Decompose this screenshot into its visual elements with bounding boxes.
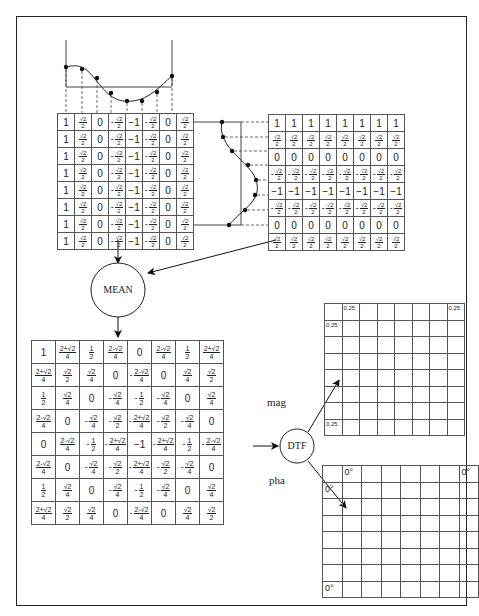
grid-cell [412, 320, 430, 337]
matrix-cell: -√22 [354, 166, 371, 183]
matrix-cell: 0 [56, 410, 80, 433]
matrix-cell: 2+√24 [32, 502, 56, 525]
matrix-cell: 0 [92, 165, 109, 182]
matrix-cell: √22 [75, 216, 92, 233]
grid-cell [342, 499, 362, 516]
matrix-cell: 12 [176, 341, 200, 364]
grid-cell [325, 353, 343, 370]
matrix-cell: -√22 [143, 165, 160, 182]
matrix-cell: 0 [160, 199, 177, 216]
grid-cell [360, 320, 378, 337]
grid-cell [360, 419, 378, 436]
grid-cell [360, 337, 378, 354]
matrix-cell: -√22 [109, 165, 126, 182]
grid-cell [430, 403, 448, 420]
matrix-cell: 0 [92, 216, 109, 233]
mag-edge-label: mag [267, 396, 286, 408]
matrix-cell: √22 [177, 114, 194, 131]
grid-cell [362, 482, 382, 499]
magnitude-grid: 0,250,250,250,25 [324, 303, 465, 436]
grid-cell [381, 499, 401, 516]
matrix-cell: 0 [92, 199, 109, 216]
grid-cell [459, 515, 479, 532]
matrix-cell: -√22 [337, 166, 354, 183]
matrix-cell: -2+√24 [152, 433, 176, 456]
matrix-cell: √22 [337, 234, 354, 251]
matrix-cell: √22 [337, 132, 354, 149]
matrix-cell: 0 [160, 233, 177, 250]
grid-cell [323, 499, 343, 516]
matrix-cell: 0 [160, 182, 177, 199]
grid-cell: 0° [459, 466, 479, 483]
matrix-cell: √22 [177, 131, 194, 148]
matrix-cell: 12 [32, 387, 56, 410]
matrix-cell: 0 [160, 148, 177, 165]
matrix-cell: 0 [32, 433, 56, 456]
grid-cell [377, 353, 395, 370]
matrix-cell: √22 [320, 234, 337, 251]
grid-cell [395, 370, 413, 387]
matrix-cell: -2+√24 [104, 433, 128, 456]
grid-cell: 0° [323, 482, 343, 499]
matrix-cell: -√22 [371, 200, 388, 217]
matrix-cell: -√22 [109, 199, 126, 216]
grid-cell [377, 419, 395, 436]
grid-cell: 0,25 [325, 320, 343, 337]
matrix-cell: −1 [320, 183, 337, 200]
grid-cell [430, 320, 448, 337]
matrix-cell: √22 [320, 132, 337, 149]
grid-cell [420, 482, 440, 499]
vertical-basis-matrix: 11111111√22√22√22√22√22√22√22√2200000000… [268, 114, 405, 251]
matrix-cell: √22 [303, 132, 320, 149]
grid-cell [440, 581, 460, 598]
grid-cell [362, 499, 382, 516]
matrix-cell: 0 [160, 131, 177, 148]
matrix-cell: 0 [104, 502, 128, 525]
matrix-cell: −1 [126, 233, 143, 250]
matrix-cell: −1 [354, 183, 371, 200]
matrix-cell: -√22 [143, 114, 160, 131]
matrix-cell: -√22 [104, 456, 128, 479]
matrix-cell: -√22 [143, 199, 160, 216]
vertical-cosine-plot [193, 120, 268, 227]
matrix-cell: √22 [388, 132, 405, 149]
matrix-cell: 1 [58, 199, 75, 216]
grid-cell [362, 532, 382, 549]
grid-cell [360, 304, 378, 321]
grid-cell [401, 515, 421, 532]
matrix-cell: 0 [354, 149, 371, 166]
grid-cell [360, 370, 378, 387]
grid-cell [420, 466, 440, 483]
matrix-cell: -√22 [109, 233, 126, 250]
matrix-cell: 0 [104, 364, 128, 387]
matrix-cell: 1 [354, 115, 371, 132]
matrix-cell: 1 [58, 131, 75, 148]
grid-cell [412, 419, 430, 436]
grid-cell [395, 386, 413, 403]
matrix-cell: 2-√24 [32, 456, 56, 479]
matrix-cell: 2+√24 [56, 341, 80, 364]
grid-cell [459, 482, 479, 499]
grid-cell [381, 581, 401, 598]
grid-cell [401, 565, 421, 582]
grid-cell [430, 370, 448, 387]
grid-cell [440, 499, 460, 516]
matrix-cell: 0 [286, 149, 303, 166]
grid-cell [447, 320, 465, 337]
matrix-cell: √24 [200, 479, 224, 502]
matrix-cell: 0 [80, 479, 104, 502]
matrix-cell: -12 [128, 387, 152, 410]
grid-cell [342, 581, 362, 598]
grid-cell [323, 548, 343, 565]
matrix-cell: −1 [388, 183, 405, 200]
grid-cell [360, 386, 378, 403]
grid-cell [440, 565, 460, 582]
matrix-cell: -2-√24 [128, 502, 152, 525]
matrix-cell: -√22 [109, 114, 126, 131]
grid-cell [381, 482, 401, 499]
grid-cell [395, 403, 413, 420]
pha-edge-label: pha [269, 474, 285, 486]
matrix-cell: √24 [176, 502, 200, 525]
grid-cell [377, 304, 395, 321]
matrix-cell: -√22 [354, 200, 371, 217]
